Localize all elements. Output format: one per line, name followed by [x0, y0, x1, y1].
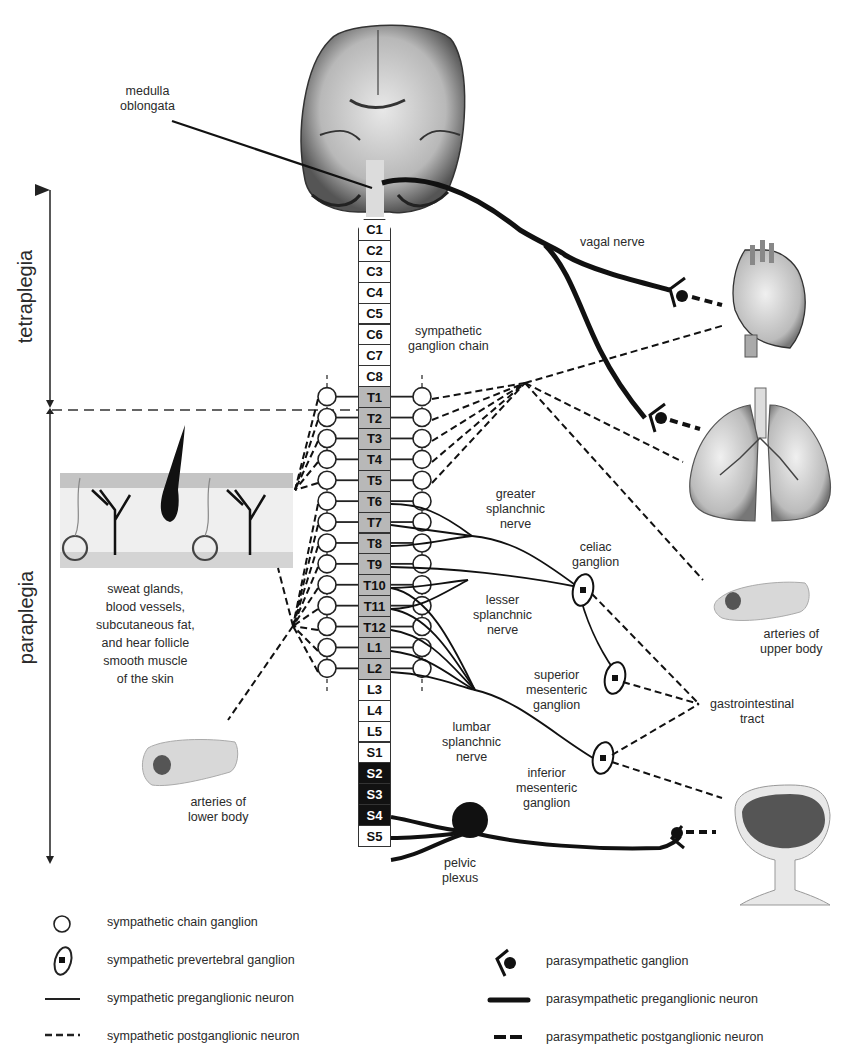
label-arteries-lower: arteries of lower body [188, 795, 248, 825]
label-sympathetic-chain: sympathetic ganglion chain [408, 324, 489, 354]
chain-ganglion-l1 [318, 638, 336, 656]
chain-ganglion-t9 [318, 555, 336, 573]
chain-ganglion-t3 [413, 429, 431, 447]
chain-ganglion-t11 [318, 597, 336, 615]
superior-mesenteric-ganglion [602, 660, 628, 695]
chain-ganglion-t8 [318, 534, 336, 552]
heart-illustration [733, 240, 805, 357]
spinal-segment-s5: S5 [358, 825, 391, 847]
legend-para-postganglionic: parasympathetic postganglionic neuron [546, 1030, 764, 1044]
chain-ganglion-l2 [318, 659, 336, 677]
spinal-segment-t2: T2 [358, 407, 391, 429]
legend-prevertebral-ganglion: sympathetic prevertebral ganglion [107, 953, 295, 967]
spinal-segment-c1: C1 [358, 219, 391, 241]
chain-ganglion-t3 [318, 429, 336, 447]
label-tetraplegia: tetraplegia [14, 250, 37, 343]
chain-ganglion-t4 [413, 450, 431, 468]
parasympathetic-ganglion-heart [670, 278, 722, 307]
spinal-segment-t5: T5 [358, 470, 391, 492]
chain-ganglion-t2 [318, 409, 336, 427]
spinal-segment-l4: L4 [358, 700, 391, 722]
spinal-segment-t4: T4 [358, 449, 391, 471]
label-gastrointestinal: gastrointestinal tract [710, 697, 794, 727]
spinal-segment-c6: C6 [358, 324, 391, 346]
chain-ganglion-t12 [413, 618, 431, 636]
legend-symbols [45, 916, 528, 1037]
spinal-segment-t9: T9 [358, 553, 391, 575]
label-paraplegia: paraplegia [15, 571, 38, 664]
label-inferior-mesenteric: inferior mesenteric ganglion [516, 766, 577, 811]
chain-ganglion-t12 [318, 618, 336, 636]
lungs-illustration [690, 388, 831, 521]
spinal-segment-l5: L5 [358, 721, 391, 743]
label-lumbar-splanchnic: lumbar splanchnic nerve [442, 720, 501, 765]
spinal-segment-t6: T6 [358, 491, 391, 513]
spinal-segment-s4: S4 [358, 804, 391, 826]
chain-ganglion-t9 [413, 555, 431, 573]
bladder-illustration [735, 785, 830, 905]
chain-ganglion-t2 [413, 409, 431, 427]
chain-ganglion-t4 [318, 450, 336, 468]
chain-ganglion-t5 [413, 471, 431, 489]
spinal-segment-c7: C7 [358, 344, 391, 366]
pelvic-plexus-node [452, 802, 488, 838]
spinal-segment-c2: C2 [358, 240, 391, 262]
legend-para-preganglionic: parasympathetic preganglionic neuron [546, 992, 758, 1006]
skin-illustration [60, 425, 293, 568]
inferior-mesenteric-ganglion [590, 740, 616, 775]
chain-ganglion-t7 [318, 513, 336, 531]
legend-chain-ganglion: sympathetic chain ganglion [107, 915, 258, 929]
arteries-lower-illustration [142, 740, 237, 786]
label-superior-mesenteric: superior mesenteric ganglion [526, 668, 587, 713]
spinal-segment-t12: T12 [358, 616, 391, 638]
celiac-ganglion [570, 572, 596, 607]
diagram-canvas: C1C2C3C4C5C6C7C8T1T2T3T4T5T6T7T8T9T10T11… [0, 0, 853, 1059]
label-skin-targets: sweat glands, blood vessels, subcutaneou… [96, 580, 195, 688]
label-lesser-splanchnic: lesser splanchnic nerve [473, 593, 532, 638]
spinal-segment-c8: C8 [358, 365, 391, 387]
spinal-segment-s1: S1 [358, 742, 391, 764]
legend-symp-preganglionic: sympathetic preganglionic neuron [107, 991, 294, 1005]
chain-ganglion-t1 [413, 388, 431, 406]
legend-symp-postganglionic: sympathetic postganglionic neuron [107, 1029, 299, 1043]
chain-ganglion-t6 [318, 492, 336, 510]
label-medulla: medulla oblongata [120, 84, 175, 114]
brain-illustration [301, 25, 465, 217]
spinal-segment-t11: T11 [358, 595, 391, 617]
label-arteries-upper: arteries of upper body [760, 627, 823, 657]
parasympathetic-ganglion-lungs [650, 404, 700, 432]
spinal-segment-c4: C4 [358, 282, 391, 304]
label-greater-splanchnic: greater splanchnic nerve [486, 487, 545, 532]
spinal-segment-t7: T7 [358, 512, 391, 534]
spinal-segment-s3: S3 [358, 783, 391, 805]
chain-ganglion-t1 [318, 388, 336, 406]
spinal-segment-c5: C5 [358, 303, 391, 325]
chain-ganglion-t10 [318, 576, 336, 594]
spinal-segment-l2: L2 [358, 658, 391, 680]
legend-para-ganglion: parasympathetic ganglion [546, 954, 688, 968]
spinal-segment-c3: C3 [358, 261, 391, 283]
spinal-segment-s2: S2 [358, 762, 391, 784]
spinal-segment-t8: T8 [358, 533, 391, 555]
spinal-segment-t1: T1 [358, 386, 391, 408]
label-pelvic-plexus: pelvic plexus [442, 856, 478, 886]
arteries-upper-illustration [714, 582, 809, 620]
label-vagal-nerve: vagal nerve [580, 235, 645, 250]
spinal-segment-t10: T10 [358, 574, 391, 596]
spinal-segment-t3: T3 [358, 428, 391, 450]
label-celiac-ganglion: celiac ganglion [572, 540, 619, 570]
chain-ganglion-t5 [318, 471, 336, 489]
spinal-segment-l1: L1 [358, 637, 391, 659]
spinal-segment-l3: L3 [358, 679, 391, 701]
parasympathetic-ganglion-bladder [671, 826, 716, 848]
